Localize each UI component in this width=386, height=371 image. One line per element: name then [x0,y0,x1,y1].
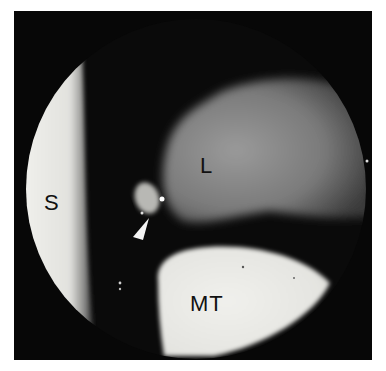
arthroscopic-image-frame: S L MT [14,11,372,360]
label-l: L [200,155,213,177]
label-s: S [44,192,60,214]
label-mt: MT [190,293,224,315]
